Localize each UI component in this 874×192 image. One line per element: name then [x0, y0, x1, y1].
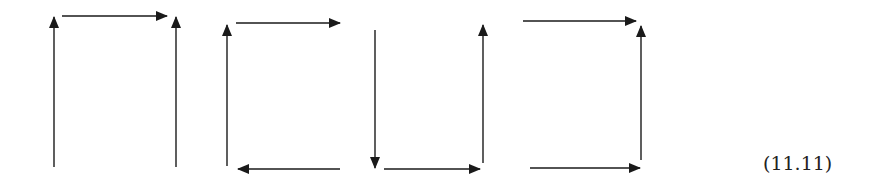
diagram-4 — [523, 21, 641, 168]
diagram-3 — [384, 25, 483, 169]
diagram-1 — [54, 16, 176, 167]
arrow-diagrams — [0, 0, 874, 192]
equation-number: (11.11) — [763, 152, 832, 174]
diagram-2 — [227, 23, 375, 169]
